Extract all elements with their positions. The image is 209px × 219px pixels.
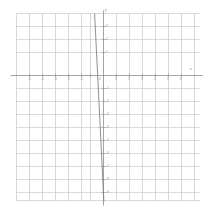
y-tick-label: -8 (106, 178, 109, 181)
x-tick-label: 2 (128, 78, 130, 81)
y-tick-label: -2 (106, 100, 109, 103)
x-tick-label: 4 (154, 78, 156, 81)
x-tick-label: 6 (180, 78, 182, 81)
plotted-line (95, 14, 104, 202)
y-tick-label: 2 (106, 38, 108, 41)
x-axis-label: x (190, 68, 192, 71)
y-axis-label: y (105, 9, 107, 12)
graph-canvas: x y -5 -4 -3 -2 -1 0 1 2 3 4 5 6 3 2 1 -… (0, 0, 209, 219)
horizontal-gridlines (17, 14, 201, 201)
y-tick-label: 1 (106, 51, 108, 54)
x-tick-label: -3 (54, 78, 57, 81)
y-tick-label: -5 (106, 139, 109, 142)
x-tick-label: -1 (80, 78, 83, 81)
y-tick-label: 3 (106, 25, 108, 28)
y-tick-label: -4 (106, 126, 109, 129)
y-tick-label: -9 (106, 191, 109, 194)
y-tick-label: -7 (106, 165, 109, 168)
vertical-gridlines (17, 14, 195, 201)
x-tick-label: -2 (67, 78, 70, 81)
y-tick-label: -3 (106, 113, 109, 116)
x-tick-label: 3 (141, 78, 143, 81)
x-tick-label: 0 (99, 78, 101, 81)
x-tick-label: -4 (41, 78, 44, 81)
coordinate-plane-svg (0, 0, 209, 219)
x-tick-label: 5 (167, 78, 169, 81)
y-tick-label: -6 (106, 152, 109, 155)
y-tick-label: -1 (106, 87, 109, 90)
x-tick-label: 1 (115, 78, 117, 81)
x-tick-label: -5 (28, 78, 31, 81)
